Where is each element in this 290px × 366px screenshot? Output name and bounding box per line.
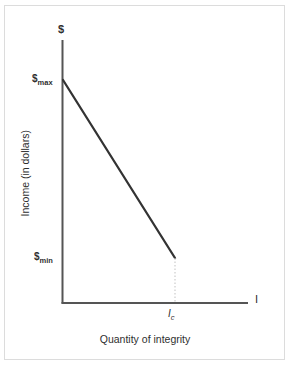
y-axis-symbol-label: $ (58, 24, 64, 35)
income-integrity-line (63, 80, 175, 258)
x-axis-caption: Quantity of integrity (0, 334, 290, 345)
figure-container: $ $max $min Ic I Quantity of integrity I… (0, 0, 290, 366)
y-tick-max-base: $ (32, 73, 38, 84)
y-tick-min-base: $ (34, 251, 40, 262)
y-tick-label-max: $max (32, 74, 53, 84)
x-axis-symbol-label: I (255, 294, 258, 305)
x-tick-label-ic: Ic (168, 309, 175, 319)
x-tick-ic-sub: c (171, 313, 175, 322)
y-tick-max-sub: max (38, 78, 53, 87)
y-tick-label-min: $min (34, 252, 53, 262)
plot-canvas (0, 0, 290, 366)
y-axis-caption: Income (in dollars) (20, 103, 31, 243)
y-tick-min-sub: min (40, 256, 53, 265)
